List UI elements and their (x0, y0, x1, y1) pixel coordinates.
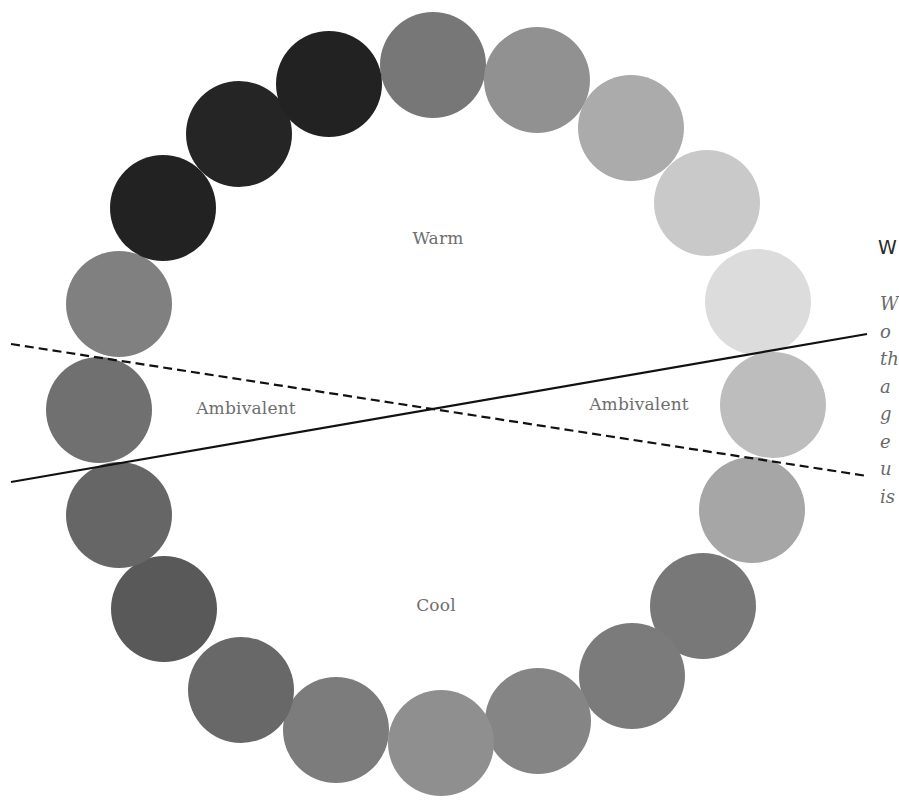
side-body-line: W (880, 290, 899, 318)
side-body-line: u (880, 455, 899, 483)
ambivalent-left-label: Ambivalent (196, 398, 296, 418)
side-body-line: th (880, 345, 899, 373)
ambivalent-right-label: Ambivalent (589, 394, 689, 414)
solid-divider-line (11, 334, 867, 482)
side-body-line: g (880, 400, 899, 428)
side-panel-body: W o th a g e u is (880, 290, 899, 510)
side-body-line: o (880, 318, 899, 346)
cool-label: Cool (416, 595, 456, 615)
side-body-line: is (880, 483, 899, 511)
warm-label: Warm (412, 228, 463, 248)
side-body-line: a (880, 373, 899, 401)
dashed-divider-line (11, 344, 867, 476)
side-panel-title: W (878, 236, 897, 258)
side-body-line: e (880, 428, 899, 456)
